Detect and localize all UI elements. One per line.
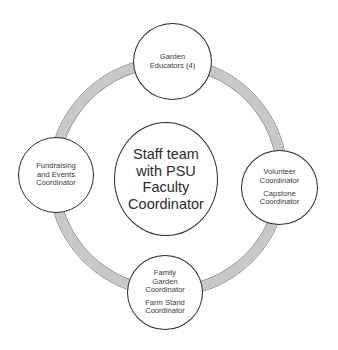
hub-staff-team: Staff team with PSU Faculty Coordinator <box>114 122 218 236</box>
node-label-line: Coordinator <box>145 307 185 316</box>
hub-label-line: Faculty <box>143 179 190 196</box>
node-text-group-capstone: Capstone Coordinator <box>260 190 300 207</box>
hub-text-group: Staff team with PSU Faculty Coordinator <box>128 146 204 212</box>
node-label-line: Coordinator <box>260 177 300 186</box>
node-volunteer-capstone-coordinator: Volunteer Coordinator Capstone Coordinat… <box>241 150 318 225</box>
node-text-group-family-garden: Family Garden Coordinator <box>145 269 185 295</box>
node-text-group: Fundraising and Events Coordinator <box>36 162 76 188</box>
node-label-line: Educators (4) <box>150 62 196 71</box>
hub-label-line: Coordinator <box>128 196 204 213</box>
node-family-garden-farm-stand-coordinator: Family Garden Coordinator Farm Stand Coo… <box>127 255 203 330</box>
hub-label-line: with PSU <box>136 163 196 180</box>
node-text-group-farm-stand: Farm Stand Coordinator <box>145 299 185 316</box>
node-label-line: Coordinator <box>145 286 185 295</box>
node-label-line: Coordinator <box>36 179 76 188</box>
node-label-line: Coordinator <box>260 198 300 207</box>
staff-structure-diagram: Garden Educators (4) Fundraising and Eve… <box>0 0 338 350</box>
node-text-group-volunteer: Volunteer Coordinator <box>260 168 300 185</box>
hub-label-line: Staff team <box>133 146 199 163</box>
node-text-group: Garden Educators (4) <box>150 53 196 70</box>
node-garden-educators: Garden Educators (4) <box>133 23 212 100</box>
node-fundraising-events-coordinator: Fundraising and Events Coordinator <box>18 137 94 213</box>
